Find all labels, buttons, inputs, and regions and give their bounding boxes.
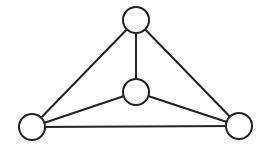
graph-canvas [0, 0, 269, 152]
edge-top-right [136, 20, 239, 126]
graph-diagram [0, 0, 269, 152]
node-left [19, 114, 45, 140]
edge-left-right [32, 126, 239, 127]
node-right [226, 113, 252, 139]
edge-top-left [32, 20, 136, 127]
node-top [123, 7, 149, 33]
edge-center-left [32, 92, 136, 127]
node-center [123, 79, 149, 105]
